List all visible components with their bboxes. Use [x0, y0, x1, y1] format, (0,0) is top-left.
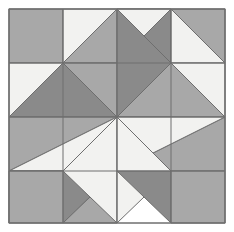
quilt-block-canvas — [0, 0, 234, 232]
corner-top-left-square — [9, 9, 63, 63]
quilt-block-figure — [0, 0, 234, 232]
corner-bottom-right-square — [171, 171, 225, 223]
corner-bottom-left-square — [9, 171, 63, 223]
